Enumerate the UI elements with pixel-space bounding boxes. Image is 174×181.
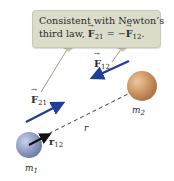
callout-line-2: third law, F21 = −F12.	[39, 27, 156, 44]
label-F12: F12	[94, 58, 110, 71]
callout-line-1: Consistent with Newton’s	[39, 14, 156, 27]
mass-2-sphere	[127, 71, 157, 101]
leader-line-F21	[41, 48, 73, 92]
label-r: r	[84, 123, 88, 133]
label-F21: F21	[31, 94, 47, 107]
callout-box: Consistent with Newton’s third law, F21 …	[32, 10, 161, 48]
label-m1: m1	[25, 163, 38, 175]
label-m2: m2	[132, 105, 145, 117]
leader-line-F12	[112, 48, 127, 62]
label-r12-hat: r12	[49, 136, 63, 149]
